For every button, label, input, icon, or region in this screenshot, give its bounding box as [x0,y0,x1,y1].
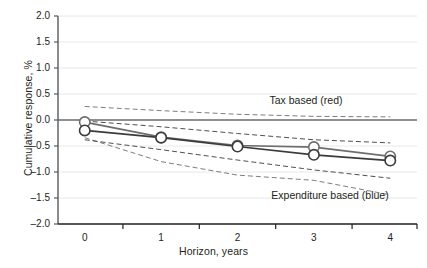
y-tick-label: 2.0 [10,10,50,21]
x-tick-label: 1 [146,232,176,243]
series-label-0: Tax based (red) [270,94,343,106]
data-point-marker [385,155,395,165]
data-point-marker [80,125,90,135]
x-axis-title: Horizon, years [0,245,427,257]
data-point-marker [156,132,166,142]
gridlines-group [58,16,417,198]
chart-plot-area [0,0,427,268]
series-label-1: Expenditure based (blue) [271,189,388,201]
y-tick-label: –2.0 [10,218,50,229]
x-tick-label: 0 [70,232,100,243]
y-axis-title: Cumulative response, % [22,38,34,198]
x-tick-label: 2 [223,232,253,243]
x-tick-label: 3 [299,232,329,243]
figure-container: 2.01.51.00.50.0–0.5–1.0–1.5–2.0 01234 Cu… [0,0,427,268]
data-point-marker [232,141,242,151]
x-tick-label: 4 [375,232,405,243]
ci-line-0-0 [85,106,391,116]
data-point-marker [309,150,319,160]
